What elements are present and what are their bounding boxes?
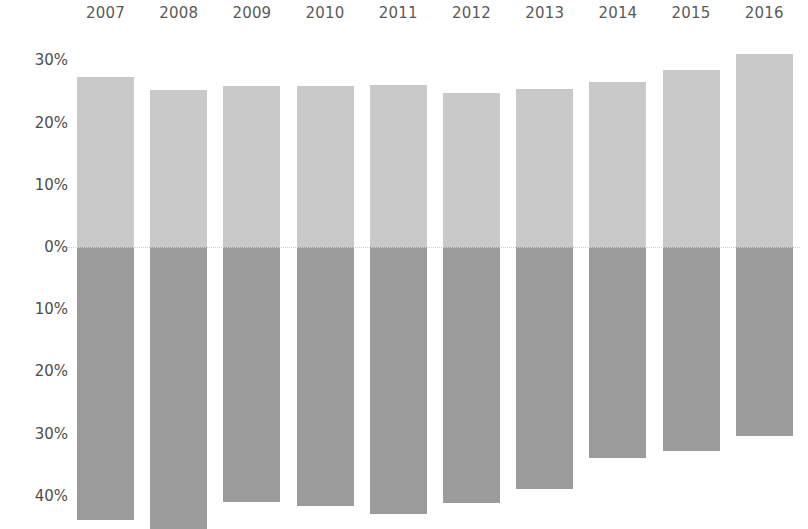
bar-positive[interactable] <box>589 82 646 247</box>
bar-group[interactable] <box>150 0 207 529</box>
bar-negative[interactable] <box>297 247 354 506</box>
bar-group[interactable] <box>370 0 427 529</box>
x-axis-year-label: 2013 <box>510 4 579 22</box>
bar-group[interactable] <box>297 0 354 529</box>
x-axis-year-label: 2009 <box>217 4 286 22</box>
bar-group[interactable] <box>663 0 720 529</box>
bar-group[interactable] <box>77 0 134 529</box>
x-axis-year-label: 2008 <box>144 4 213 22</box>
bar-negative[interactable] <box>736 247 793 436</box>
x-axis-year-label: 2014 <box>583 4 652 22</box>
x-axis-year-label: 2015 <box>657 4 726 22</box>
plot-area <box>0 0 808 529</box>
bar-positive[interactable] <box>443 93 500 247</box>
bar-positive[interactable] <box>297 86 354 247</box>
bar-positive[interactable] <box>370 85 427 247</box>
bar-group[interactable] <box>736 0 793 529</box>
bar-negative[interactable] <box>443 247 500 503</box>
x-axis-year-label: 2016 <box>730 4 799 22</box>
bar-group[interactable] <box>443 0 500 529</box>
bar-group[interactable] <box>516 0 573 529</box>
bar-negative[interactable] <box>77 247 134 520</box>
bar-negative[interactable] <box>223 247 280 502</box>
bar-positive[interactable] <box>150 90 207 247</box>
zero-baseline <box>68 247 800 249</box>
bar-negative[interactable] <box>516 247 573 489</box>
bar-group[interactable] <box>223 0 280 529</box>
bar-positive[interactable] <box>663 70 720 247</box>
bar-positive[interactable] <box>516 89 573 247</box>
diverging-bar-chart: 30%20%10%0%10%20%30%40% 2007200820092010… <box>0 0 808 529</box>
bar-positive[interactable] <box>77 77 134 247</box>
bar-negative[interactable] <box>589 247 646 458</box>
bar-positive[interactable] <box>223 86 280 247</box>
bar-positive[interactable] <box>736 54 793 247</box>
bar-negative[interactable] <box>663 247 720 451</box>
x-axis-year-label: 2010 <box>291 4 360 22</box>
x-axis-year-label: 2012 <box>437 4 506 22</box>
bar-group[interactable] <box>589 0 646 529</box>
x-axis-year-label: 2011 <box>364 4 433 22</box>
bar-negative[interactable] <box>370 247 427 514</box>
bar-negative[interactable] <box>150 247 207 529</box>
x-axis-year-label: 2007 <box>71 4 140 22</box>
